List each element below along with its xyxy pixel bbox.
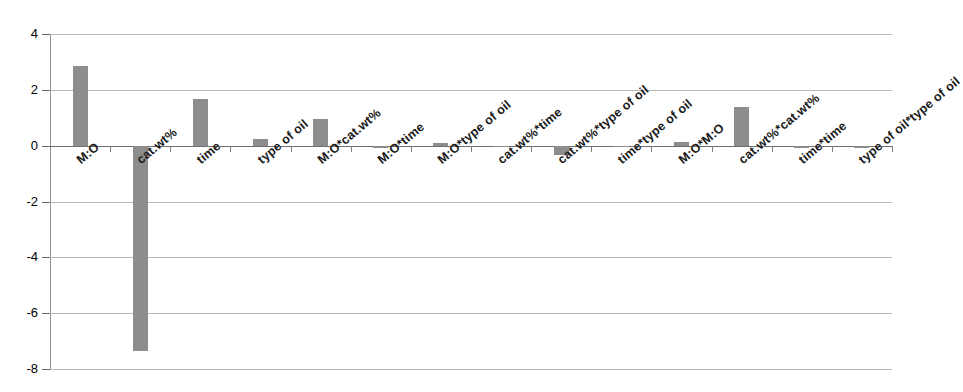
gridline (50, 90, 892, 91)
y-axis-tick-label: -6 (0, 305, 38, 320)
x-axis-tick (892, 146, 893, 152)
y-axis-tick-label: 4 (0, 26, 38, 41)
x-axis-tick (411, 146, 412, 152)
gridline (50, 257, 892, 258)
x-axis-tick (291, 146, 292, 152)
y-axis-tick-label: -8 (0, 361, 38, 376)
bar (253, 139, 268, 145)
x-axis-tick (591, 146, 592, 152)
y-axis-tick (42, 34, 50, 35)
gridline (50, 202, 892, 203)
plot-area (50, 34, 892, 369)
y-axis-tick (42, 202, 50, 203)
x-axis-tick (351, 146, 352, 152)
y-axis-tick-label: 2 (0, 82, 38, 97)
x-axis-tick (110, 146, 111, 152)
gridline (50, 313, 892, 314)
gridline (50, 369, 892, 370)
y-axis-tick (42, 90, 50, 91)
y-axis-tick (42, 369, 50, 370)
x-axis-tick (651, 146, 652, 152)
y-axis-tick (42, 146, 50, 147)
bar (133, 146, 148, 351)
y-axis-tick-label: -2 (0, 194, 38, 209)
x-axis-tick (531, 146, 532, 152)
gridline (50, 34, 892, 35)
y-axis-tick-label: 0 (0, 138, 38, 153)
bar (313, 119, 328, 146)
x-axis-tick (832, 146, 833, 152)
x-axis-tick (471, 146, 472, 152)
bar (73, 66, 88, 146)
y-axis-tick (42, 257, 50, 258)
x-axis-tick (772, 146, 773, 152)
x-axis-tick (712, 146, 713, 152)
y-axis-tick-label: -4 (0, 249, 38, 264)
bar (734, 107, 749, 145)
x-axis-tick (170, 146, 171, 152)
y-axis-tick (42, 313, 50, 314)
x-axis-tick (230, 146, 231, 152)
bar (193, 99, 208, 146)
